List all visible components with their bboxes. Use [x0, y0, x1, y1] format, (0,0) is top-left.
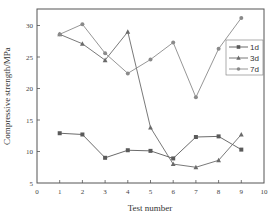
- x-tick-label: 9: [240, 188, 244, 196]
- x-tick-label: 6: [171, 188, 175, 196]
- x-tick-label: 5: [149, 188, 153, 196]
- x-tick-label: 10: [261, 188, 269, 196]
- y-tick-label: 5: [30, 180, 34, 188]
- x-tick-label: 7: [194, 188, 198, 196]
- legend-label: 1d: [250, 43, 259, 52]
- y-axis-title: Compressive strength/MPa: [2, 47, 12, 145]
- y-tick-label: 10: [26, 148, 34, 156]
- line-chart: 012345678910 51015202530 Test number Com…: [0, 0, 279, 219]
- legend: 1d3d7d: [226, 40, 263, 75]
- x-tick-label: 3: [103, 188, 107, 196]
- y-tick-label: 25: [26, 54, 34, 62]
- x-tick-label: 0: [35, 188, 39, 196]
- legend-label: 3d: [250, 54, 259, 63]
- x-axis: 012345678910: [35, 180, 268, 196]
- series-7d: [58, 16, 244, 99]
- x-tick-label: 2: [81, 188, 85, 196]
- x-axis-title: Test number: [128, 203, 173, 213]
- y-axis: 51015202530: [26, 22, 40, 188]
- series-1d: [58, 131, 244, 160]
- y-tick-label: 15: [26, 117, 34, 125]
- plot-frame: [37, 9, 264, 183]
- x-tick-label: 8: [217, 188, 221, 196]
- x-tick-label: 4: [126, 188, 130, 196]
- legend-label: 7d: [250, 65, 259, 74]
- y-tick-label: 30: [26, 22, 34, 30]
- series-3d: [57, 29, 243, 169]
- y-tick-label: 20: [26, 85, 34, 93]
- x-tick-label: 1: [58, 188, 62, 196]
- data-series: [57, 16, 243, 169]
